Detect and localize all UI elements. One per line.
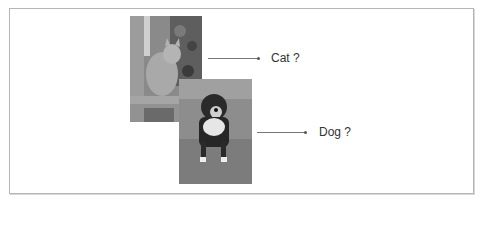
cat-label: Cat ? [271,51,300,65]
dog-photo [179,79,252,184]
cat-arrow [208,58,258,59]
dog-label: Dog ? [319,125,351,139]
dog-image-icon [179,79,252,184]
cutoff-caption [10,195,210,200]
dog-arrow [257,132,305,133]
